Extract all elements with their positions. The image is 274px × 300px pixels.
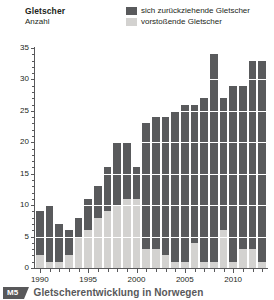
- y-tick-25: [31, 111, 34, 112]
- y-tick-0: [31, 268, 34, 269]
- bar-segment-advancing: [239, 249, 247, 268]
- x-tick-1996: [98, 269, 99, 272]
- legend-label-advancing: vorstoßende Gletscher: [141, 17, 222, 26]
- bars-layer: [35, 48, 267, 268]
- bar-segment-advancing: [133, 199, 141, 268]
- bar-segment-advancing: [229, 262, 237, 268]
- bar-segment-advancing: [210, 262, 218, 268]
- bar-segment-retreating: [133, 167, 141, 198]
- bar-segment-advancing: [200, 262, 208, 268]
- x-tick-1998: [117, 269, 118, 272]
- bar-2007: [200, 98, 208, 268]
- bar-2001: [142, 123, 150, 268]
- x-tick-2002: [156, 269, 157, 272]
- figure-caption: M5 Gletscherentwicklung in Norwegen: [0, 285, 274, 300]
- bar-segment-advancing: [258, 262, 266, 268]
- gridline-5: [35, 237, 267, 238]
- y-tick-11: [32, 199, 34, 200]
- y-tick-label-20: 20: [13, 137, 29, 146]
- y-tick-6: [32, 230, 34, 231]
- y-tick-34: [32, 54, 34, 55]
- chart-axis-subtitle: Anzahl: [25, 17, 49, 26]
- y-tick-23: [32, 123, 34, 124]
- x-tick-2013: [262, 269, 263, 272]
- bar-segment-retreating: [171, 111, 179, 262]
- plot-area: [35, 48, 267, 268]
- bar-segment-advancing: [46, 262, 54, 268]
- y-tick-8: [32, 218, 34, 219]
- gridline-30: [35, 79, 267, 80]
- bar-1994: [75, 218, 83, 268]
- bar-segment-retreating: [210, 54, 218, 261]
- bar-segment-retreating: [55, 224, 63, 262]
- y-tick-35: [31, 48, 34, 49]
- y-tick-21: [32, 136, 34, 137]
- x-tick-1999: [127, 269, 128, 272]
- y-tick-29: [32, 86, 34, 87]
- bar-segment-retreating: [152, 117, 160, 249]
- x-tick-1993: [69, 269, 70, 272]
- y-tick-label-5: 5: [13, 232, 29, 241]
- bar-segment-advancing: [171, 262, 179, 268]
- y-tick-14: [32, 180, 34, 181]
- y-tick-30: [31, 79, 34, 80]
- x-tick-1991: [50, 269, 51, 272]
- x-tick-label-1995: 1995: [73, 275, 103, 284]
- y-tick-10: [31, 205, 34, 206]
- y-tick-label-0: 0: [13, 263, 29, 272]
- bar-segment-advancing: [152, 249, 160, 268]
- y-tick-13: [32, 186, 34, 187]
- bar-segment-retreating: [123, 142, 131, 199]
- y-tick-17: [32, 161, 34, 162]
- bar-segment-retreating: [181, 105, 189, 262]
- bar-2000: [133, 167, 141, 268]
- y-tick-label-10: 10: [13, 200, 29, 209]
- bar-segment-advancing: [181, 262, 189, 268]
- bar-2011: [239, 86, 247, 268]
- bar-segment-retreating: [84, 199, 92, 230]
- y-tick-27: [32, 98, 34, 99]
- gridline-20: [35, 142, 267, 143]
- x-tick-label-2010: 2010: [218, 275, 248, 284]
- y-tick-20: [31, 142, 34, 143]
- bar-1997: [104, 167, 112, 268]
- y-tick-31: [32, 73, 34, 74]
- bar-2005: [181, 105, 189, 268]
- x-tick-2006: [195, 269, 196, 272]
- bar-segment-advancing: [75, 237, 83, 268]
- y-tick-5: [31, 237, 34, 238]
- x-tick-1997: [108, 269, 109, 272]
- chart-axis-title: Gletscher: [25, 6, 65, 16]
- x-tick-label-2005: 2005: [170, 275, 200, 284]
- y-tick-32: [32, 67, 34, 68]
- bar-segment-advancing: [191, 243, 199, 268]
- y-tick-33: [32, 61, 34, 62]
- y-tick-16: [32, 167, 34, 168]
- y-tick-label-35: 35: [13, 43, 29, 52]
- x-tick-2003: [166, 269, 167, 272]
- x-tick-2008: [214, 269, 215, 272]
- y-tick-4: [32, 243, 34, 244]
- x-tick-2004: [175, 269, 176, 272]
- y-tick-28: [32, 92, 34, 93]
- gridline-25: [35, 111, 267, 112]
- bar-segment-advancing: [65, 255, 73, 268]
- legend-label-retreating: sich zurückziehende Gletscher: [141, 6, 250, 15]
- bar-segment-advancing: [104, 211, 112, 268]
- bar-2003: [162, 117, 170, 268]
- bar-2004: [171, 111, 179, 268]
- x-tick-2011: [243, 269, 244, 272]
- bar-1996: [94, 186, 102, 268]
- y-tick-label-30: 30: [13, 74, 29, 83]
- x-tick-2007: [204, 269, 205, 272]
- x-tick-2005: [185, 269, 186, 273]
- bar-2009: [220, 98, 228, 268]
- y-tick-1: [32, 262, 34, 263]
- x-tick-2000: [137, 269, 138, 273]
- y-tick-3: [32, 249, 34, 250]
- bar-segment-advancing: [94, 218, 102, 268]
- x-tick-label-2000: 2000: [122, 275, 152, 284]
- y-tick-2: [32, 255, 34, 256]
- bar-segment-advancing: [123, 199, 131, 268]
- x-tick-2001: [146, 269, 147, 272]
